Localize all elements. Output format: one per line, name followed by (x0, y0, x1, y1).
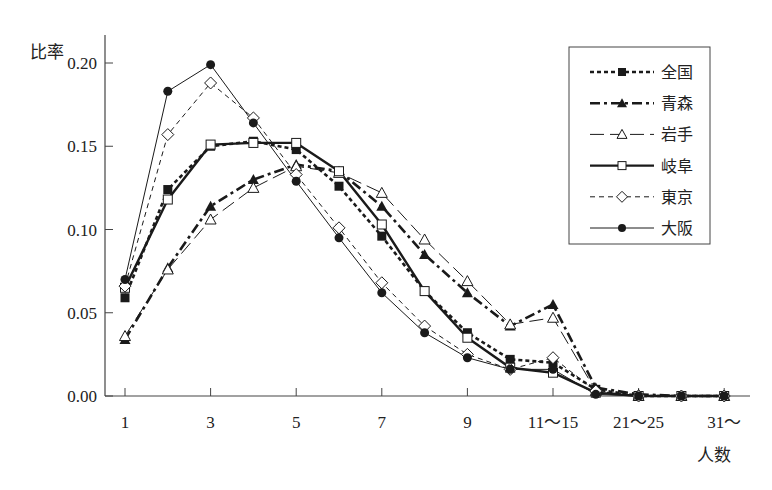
legend-label: 岐阜 (661, 157, 693, 176)
x-tick-label: 3 (206, 413, 215, 432)
square-marker-icon (335, 182, 344, 191)
y-tick-label: 0.15 (67, 137, 97, 156)
circle-marker-icon (618, 224, 626, 232)
circle-marker-icon (634, 392, 643, 401)
circle-marker-icon (591, 390, 600, 399)
square-marker-icon (163, 185, 172, 194)
y-tick-label: 0.05 (67, 304, 97, 323)
triangle-marker-icon (205, 201, 216, 211)
circle-marker-icon (292, 177, 301, 186)
x-tick-label: 1 (121, 413, 130, 432)
circle-marker-icon (549, 365, 558, 374)
y-tick-label: 0.20 (67, 54, 97, 73)
line-chart: 0.000.050.100.150.201357911～1521～2531～ 全… (0, 0, 772, 490)
triangle-marker-icon (548, 312, 559, 322)
x-tick-label: 21～25 (613, 413, 664, 432)
square-marker-icon (249, 138, 258, 147)
diamond-marker-icon (205, 77, 217, 89)
circle-marker-icon (335, 233, 344, 242)
legend: 全国青森岩手岐阜東京大阪 (569, 47, 710, 244)
legend-label: 岩手 (661, 125, 693, 144)
diamond-marker-icon (162, 129, 174, 141)
triangle-marker-icon (419, 234, 430, 244)
circle-marker-icon (377, 288, 386, 297)
circle-marker-icon (121, 275, 130, 284)
legend-label: 東京 (661, 188, 693, 207)
circle-marker-icon (677, 392, 686, 401)
circle-marker-icon (720, 392, 729, 401)
x-tick-label: 9 (463, 413, 472, 432)
legend-label: 大阪 (661, 219, 693, 238)
circle-marker-icon (206, 60, 215, 69)
triangle-marker-icon (376, 201, 387, 211)
square-marker-icon (377, 232, 386, 241)
triangle-marker-icon (462, 276, 473, 286)
y-tick-label: 0.00 (67, 387, 97, 406)
circle-marker-icon (506, 365, 515, 374)
circle-marker-icon (249, 118, 258, 127)
legend-label: 青森 (661, 94, 693, 113)
x-tick-label: 11～15 (528, 413, 578, 432)
legend-label: 全国 (661, 63, 693, 82)
square-marker-icon (121, 293, 130, 302)
square-marker-icon (335, 167, 344, 176)
triangle-marker-icon (376, 187, 387, 197)
x-tick-label: 7 (378, 413, 387, 432)
triangle-marker-icon (548, 299, 559, 309)
triangle-marker-icon (419, 249, 430, 259)
circle-marker-icon (163, 87, 172, 96)
square-marker-icon (463, 333, 472, 342)
square-marker-icon (206, 140, 215, 149)
circle-marker-icon (463, 353, 472, 362)
square-marker-icon (292, 138, 301, 147)
circle-marker-icon (420, 328, 429, 337)
x-tick-label: 31～ (707, 413, 741, 432)
square-marker-icon (163, 195, 172, 204)
square-marker-icon (618, 68, 626, 76)
x-axis-title: 人数 (697, 445, 731, 465)
square-marker-icon (506, 355, 515, 364)
square-marker-icon (618, 162, 626, 170)
square-marker-icon (420, 287, 429, 296)
x-tick-label: 5 (292, 413, 301, 432)
square-marker-icon (377, 220, 386, 229)
y-tick-label: 0.10 (67, 221, 97, 240)
triangle-marker-icon (205, 214, 216, 224)
